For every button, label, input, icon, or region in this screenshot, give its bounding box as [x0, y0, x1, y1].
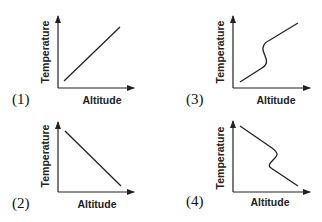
graph-panel-2: Temperature Altitude (2) [12, 122, 134, 212]
temperature-curve [64, 27, 120, 81]
y-axis-label: Temperature [214, 20, 226, 83]
temperature-curve [240, 126, 298, 186]
temperature-curve [65, 131, 121, 186]
graph-panel-3: Temperature Altitude (3) [186, 16, 310, 108]
temperature-curve [240, 23, 298, 82]
panel-number: (3) [186, 91, 204, 108]
four-graph-diagram: Temperature Altitude (1) Temperature Alt… [0, 0, 322, 222]
panel-number: (4) [186, 193, 204, 210]
panel-number: (2) [12, 195, 30, 212]
x-axis-label: Altitude [82, 94, 121, 106]
x-axis-label: Altitude [250, 196, 289, 208]
y-axis-label: Temperature [39, 124, 51, 187]
y-axis-label: Temperature [39, 20, 51, 83]
x-axis-label: Altitude [77, 198, 116, 210]
graph-panel-1: Temperature Altitude (1) [12, 16, 134, 108]
x-axis-label: Altitude [256, 94, 295, 106]
panel-number: (1) [12, 91, 30, 108]
graph-panel-4: Temperature Altitude (4) [186, 121, 310, 210]
y-axis-label: Temperature [214, 126, 226, 189]
